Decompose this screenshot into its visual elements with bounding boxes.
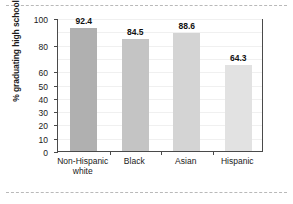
x-axis-tick: [213, 151, 214, 155]
bar[interactable]: 88.6: [173, 33, 200, 151]
x-axis-category-label: Non-Hispanic white: [57, 156, 109, 176]
y-axis-tick-label: 40: [39, 95, 48, 105]
bar-value-label: 88.6: [178, 21, 195, 31]
y-axis-tick-label: 50: [39, 82, 48, 92]
y-axis-tick: 50: [54, 86, 58, 87]
y-axis-tick-label: 10: [39, 135, 48, 145]
x-axis-tick: [110, 151, 111, 155]
y-axis-tick-label: 20: [39, 121, 48, 131]
y-axis-tick: 60: [54, 72, 58, 73]
plot-area: 010203040506080100 92.484.588.664.3: [57, 19, 263, 152]
bar[interactable]: 84.5: [122, 39, 149, 151]
chart-figure: % graduating high school 010203040506080…: [0, 0, 293, 204]
y-axis-tick-label: 80: [39, 42, 48, 52]
bar[interactable]: 92.4: [70, 28, 97, 151]
y-axis-tick: 100: [54, 19, 58, 20]
y-axis-title: % graduating high school: [11, 0, 21, 121]
y-axis-tick: 80: [54, 46, 58, 47]
x-axis-tick: [161, 151, 162, 155]
y-axis-tick: 0: [54, 152, 58, 153]
x-axis-category-label: Hispanic: [212, 156, 264, 166]
x-axis-category-label: Black: [109, 156, 161, 166]
y-axis-tick-label: 60: [39, 68, 48, 78]
y-axis-tick: 40: [54, 99, 58, 100]
y-axis-tick: 30: [54, 112, 58, 113]
y-axis-tick: 10: [54, 139, 58, 140]
y-axis-tick: 20: [54, 125, 58, 126]
bar-value-label: 92.4: [75, 16, 92, 26]
top-divider: [6, 5, 287, 6]
bar-value-label: 84.5: [127, 27, 144, 37]
bar-value-label: 64.3: [230, 53, 247, 63]
bar[interactable]: 64.3: [225, 65, 252, 151]
bottom-divider: [6, 192, 287, 193]
y-axis-tick-label: 30: [39, 108, 48, 118]
y-axis-tick-label: 100: [34, 15, 48, 25]
y-axis-tick-label: 0: [43, 148, 48, 158]
x-axis-category-label: Asian: [160, 156, 212, 166]
